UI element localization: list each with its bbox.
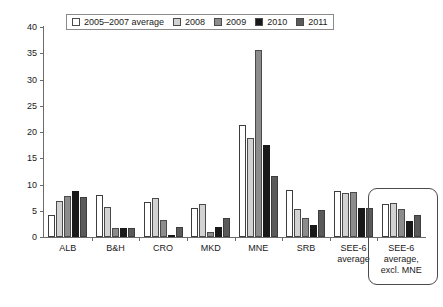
y-tick-label: 15 <box>27 154 37 163</box>
x-tick-mark <box>92 237 93 241</box>
x-tick-mark <box>377 237 378 241</box>
bar <box>176 227 183 237</box>
x-axis-label-3: MKD <box>187 243 235 254</box>
x-tick-mark <box>235 237 236 241</box>
x-tick-mark <box>330 237 331 241</box>
y-tick-label: 30 <box>27 75 37 84</box>
legend-item-2[interactable]: 2009 <box>214 18 246 27</box>
bar <box>96 195 103 237</box>
bar <box>302 218 309 237</box>
legend-item-3[interactable]: 2010 <box>255 18 287 27</box>
bar <box>152 198 159 237</box>
x-axis-label-line: SRB <box>282 243 330 254</box>
bar <box>294 209 301 237</box>
x-axis-label-1: B&H <box>92 243 140 254</box>
bar <box>160 220 167 237</box>
bar <box>271 176 278 237</box>
bar-chart: 2005–2007 average2008200920102011 051015… <box>0 0 443 307</box>
bar-group <box>377 27 425 237</box>
bar <box>286 190 293 237</box>
bar-group <box>330 27 378 237</box>
bar <box>128 228 135 237</box>
x-axis-label-line: B&H <box>92 243 140 254</box>
bar <box>48 215 55 237</box>
bar <box>215 227 222 237</box>
x-axis-label-4: MNE <box>235 243 283 254</box>
x-axis-label-5: SRB <box>282 243 330 254</box>
bar <box>120 228 127 237</box>
legend-item-1[interactable]: 2008 <box>173 18 205 27</box>
y-tick-label: 5 <box>32 206 37 215</box>
bar <box>406 221 413 237</box>
x-axis-label-6: SEE-6average <box>330 243 378 265</box>
bar <box>334 191 341 237</box>
x-axis-label-7: SEE-6average,excl. MNE <box>377 243 425 276</box>
legend-item-0[interactable]: 2005–2007 average <box>72 18 164 27</box>
bar <box>104 207 111 237</box>
x-axis-label-line: average, <box>377 254 425 265</box>
y-tick-label: 25 <box>27 101 37 110</box>
x-axis-label-2: CRO <box>139 243 187 254</box>
bar <box>223 218 230 237</box>
legend-swatch-icon-3 <box>255 18 263 26</box>
x-axis-ticks <box>44 237 425 242</box>
x-tick-mark <box>187 237 188 241</box>
y-tick-label: 0 <box>32 233 37 242</box>
bar <box>310 225 317 237</box>
x-tick-mark <box>282 237 283 241</box>
bar <box>263 145 270 237</box>
legend-swatch-icon-2 <box>214 18 222 26</box>
y-tick-label: 40 <box>27 23 37 32</box>
x-tick-mark <box>139 237 140 241</box>
bar <box>255 50 262 237</box>
legend-swatch-icon-1 <box>173 18 181 26</box>
bar-group <box>187 27 235 237</box>
bar <box>390 203 397 237</box>
plot-area <box>44 27 425 237</box>
bar-group <box>92 27 140 237</box>
bar-group <box>235 27 283 237</box>
legend-swatch-icon-4 <box>296 18 304 26</box>
bar <box>199 204 206 237</box>
bar-group <box>139 27 187 237</box>
bar-group <box>282 27 330 237</box>
bar <box>112 228 119 237</box>
bar <box>239 125 246 237</box>
bar <box>318 210 325 237</box>
y-tick-label: 20 <box>27 128 37 137</box>
bar <box>358 208 365 237</box>
y-tick-label: 35 <box>27 49 37 58</box>
bar <box>350 192 357 237</box>
legend-label: 2011 <box>308 18 327 27</box>
legend-label: 2010 <box>267 18 287 27</box>
legend-label: 2005–2007 average <box>84 18 164 27</box>
bar <box>144 202 151 237</box>
bar-group <box>44 27 92 237</box>
legend-label: 2008 <box>185 18 205 27</box>
x-axis-label-line: CRO <box>139 243 187 254</box>
x-axis-label-line: MKD <box>187 243 235 254</box>
x-axis-label-line: MNE <box>235 243 283 254</box>
y-tick-label: 10 <box>27 180 37 189</box>
bar <box>72 191 79 237</box>
bar <box>382 204 389 237</box>
x-axis-label-0: ALB <box>44 243 92 254</box>
x-axis-label-line: ALB <box>44 243 92 254</box>
x-axis-label-line: SEE-6 <box>330 243 378 254</box>
bar <box>80 197 87 237</box>
bar <box>398 209 405 237</box>
x-axis-label-line: SEE-6 <box>377 243 425 254</box>
x-axis-label-line: average <box>330 254 378 265</box>
legend-label: 2009 <box>226 18 246 27</box>
legend-item-4[interactable]: 2011 <box>296 18 327 27</box>
x-axis-label-line: excl. MNE <box>377 265 425 276</box>
legend-swatch-icon-0 <box>72 18 80 26</box>
bar <box>414 215 421 237</box>
bar <box>191 208 198 237</box>
bar <box>247 138 254 237</box>
bar <box>342 193 349 237</box>
bar <box>56 201 63 237</box>
bar <box>64 196 71 237</box>
bar <box>366 208 373 237</box>
